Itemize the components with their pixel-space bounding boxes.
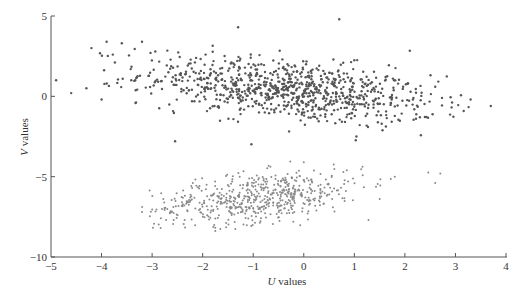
data-point — [238, 97, 240, 99]
data-point — [224, 60, 226, 62]
data-point — [189, 201, 191, 203]
data-point — [360, 94, 362, 96]
data-point — [212, 226, 214, 228]
data-point — [298, 110, 300, 112]
data-point — [405, 104, 407, 106]
data-point — [254, 185, 256, 187]
data-point — [328, 194, 330, 196]
data-point — [296, 177, 298, 179]
data-point — [252, 63, 254, 65]
data-point — [212, 105, 214, 107]
data-point — [289, 200, 291, 202]
data-point — [261, 187, 263, 189]
data-point — [291, 197, 293, 199]
data-point — [319, 114, 321, 116]
data-point — [313, 169, 315, 171]
data-point — [378, 97, 380, 99]
data-point — [308, 82, 310, 84]
data-point — [279, 205, 281, 207]
data-point — [213, 70, 215, 72]
data-point — [298, 185, 300, 187]
data-point — [219, 228, 221, 230]
y-axis-title: V values — [18, 118, 30, 156]
data-point — [208, 198, 210, 200]
data-point — [179, 56, 181, 58]
data-point — [307, 213, 309, 215]
data-point — [312, 81, 314, 83]
data-point — [249, 92, 251, 94]
data-point — [188, 204, 190, 206]
data-point — [245, 99, 247, 101]
data-point — [194, 179, 196, 181]
data-point — [377, 121, 379, 123]
data-point — [210, 195, 212, 197]
data-point — [362, 71, 364, 73]
data-point — [324, 116, 326, 118]
data-point — [288, 189, 290, 191]
data-point — [340, 88, 342, 90]
data-point — [226, 174, 228, 176]
data-point — [231, 181, 233, 183]
data-point — [288, 209, 290, 211]
data-point — [383, 103, 385, 105]
data-point — [246, 190, 248, 192]
data-point — [150, 211, 152, 213]
data-point — [281, 190, 283, 192]
data-point — [287, 185, 289, 187]
data-point — [278, 104, 280, 106]
data-point — [367, 107, 369, 109]
data-point — [391, 121, 393, 123]
data-point — [188, 89, 190, 91]
data-point — [325, 179, 327, 181]
data-point — [460, 94, 462, 96]
data-point — [220, 202, 222, 204]
data-point — [251, 219, 253, 221]
data-point — [141, 41, 143, 43]
data-point — [288, 183, 290, 185]
data-point — [100, 98, 102, 100]
data-point — [204, 90, 206, 92]
data-point — [209, 68, 211, 70]
data-point — [280, 200, 282, 202]
data-point — [365, 76, 367, 78]
data-point — [263, 64, 265, 66]
data-point — [343, 72, 345, 74]
data-point — [226, 206, 228, 208]
data-point — [134, 48, 136, 50]
data-point — [171, 81, 173, 83]
data-point — [299, 73, 301, 75]
data-point — [353, 103, 355, 105]
data-point — [305, 103, 307, 105]
data-point — [337, 108, 339, 110]
data-point — [310, 75, 312, 77]
data-point — [244, 92, 246, 94]
data-point — [319, 201, 321, 203]
data-point — [302, 66, 304, 68]
data-point — [441, 97, 443, 99]
data-point — [319, 92, 321, 94]
data-point — [226, 203, 228, 205]
data-point — [420, 92, 422, 94]
data-point — [390, 96, 392, 98]
data-point — [282, 67, 284, 69]
data-point — [394, 105, 396, 107]
data-point — [237, 79, 239, 81]
data-point — [174, 140, 176, 142]
data-point — [200, 91, 202, 93]
data-point — [307, 218, 309, 220]
data-point — [245, 206, 247, 208]
data-point — [258, 83, 260, 85]
data-point — [373, 71, 375, 73]
data-point — [247, 95, 249, 97]
data-point — [263, 180, 265, 182]
data-point — [302, 202, 304, 204]
data-point — [151, 195, 153, 197]
data-point — [237, 26, 239, 28]
data-point — [284, 204, 286, 206]
data-point — [347, 181, 349, 183]
data-point — [134, 102, 136, 104]
data-point — [221, 188, 223, 190]
data-point — [415, 88, 417, 90]
data-point — [352, 96, 354, 98]
data-point — [243, 223, 245, 225]
